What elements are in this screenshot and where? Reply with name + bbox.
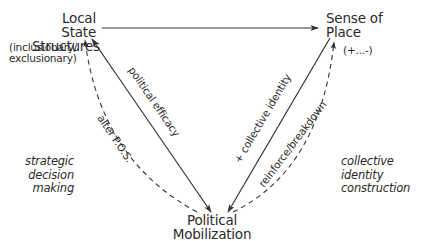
node-political-mobilization-line2: Mobilization	[172, 227, 252, 241]
node-political-mobilization-line1: Political	[172, 213, 252, 227]
node-local-state-line1: Local State	[32, 11, 96, 39]
node-sense-of-place-line2: Place	[326, 25, 382, 39]
node-sense-of-place: Sense of Place	[326, 11, 382, 39]
side-label-collective-identity-construction: collective identity construction	[341, 155, 410, 196]
edge-collective-identity	[228, 38, 330, 212]
side-label-strategic-decision-making: strategic decision making	[14, 155, 74, 196]
note-inclusionary-exclusionary: (inclusionary/ exclusionary)	[9, 42, 77, 64]
node-sense-of-place-line1: Sense of	[326, 11, 382, 25]
label-alter-pos: alter P.O.S.	[95, 112, 135, 164]
node-political-mobilization: Political Mobilization	[172, 213, 252, 241]
note-plus-minus: (+...-)	[343, 45, 372, 56]
edge-reinforce-breakdown	[233, 42, 334, 212]
